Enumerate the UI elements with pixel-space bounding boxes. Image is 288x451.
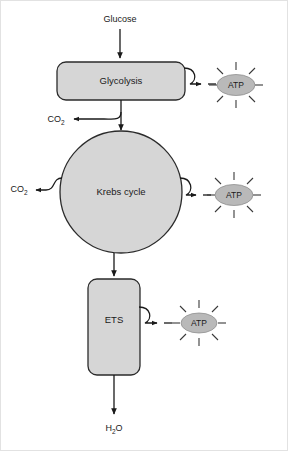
atp-label-krebs: ATP <box>226 190 242 200</box>
atp-label-glycolysis: ATP <box>228 80 244 90</box>
water-output-label: H2O <box>105 423 122 434</box>
cellular-respiration-diagram: Glucose Glycolysis ATP CO2 Krebs <box>0 0 288 451</box>
respiration-flowchart-svg: Glucose Glycolysis ATP CO2 Krebs <box>0 0 288 451</box>
co2-label-glycolysis: CO2 <box>47 114 65 125</box>
krebs-cycle-label: Krebs cycle <box>96 186 145 197</box>
arrow-glycolysis-to-atp <box>184 68 201 84</box>
ets-box <box>88 279 140 375</box>
co2-label-krebs: CO2 <box>10 184 28 195</box>
glycolysis-label: Glycolysis <box>100 75 143 86</box>
atp-starburst-glycolysis: ATP <box>209 62 263 108</box>
ets-label: ETS <box>105 314 123 325</box>
arrow-krebs-to-co2 <box>36 178 62 190</box>
arrow-ets-to-atp <box>139 307 157 323</box>
arrow-glycolysis-to-co2 <box>74 112 121 119</box>
atp-starburst-krebs: ATP <box>207 172 261 218</box>
atp-label-ets: ATP <box>191 318 207 328</box>
atp-starburst-ets: ATP <box>172 300 226 346</box>
glucose-input-label: Glucose <box>103 14 136 24</box>
